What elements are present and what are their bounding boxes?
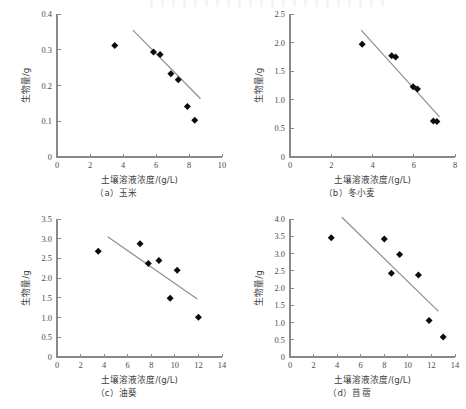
y-tick-label: 3.5 bbox=[275, 232, 285, 241]
data-point-marker bbox=[137, 240, 144, 247]
data-point-marker bbox=[440, 333, 447, 340]
x-tick-label: 8 bbox=[382, 361, 386, 370]
x-tick-label: 0 bbox=[55, 361, 59, 370]
x-tick-label: 2 bbox=[329, 161, 333, 170]
y-tick-label: 3.5 bbox=[42, 215, 52, 224]
trend-line bbox=[361, 30, 439, 117]
y-tick-label: 3.0 bbox=[42, 235, 52, 244]
data-point-marker bbox=[111, 42, 118, 49]
y-tick-label: 0 bbox=[281, 153, 285, 162]
chart-panel-a: 024681000.10.20.30.4生物量/g土壤溶液浓度/(g/L)（a）… bbox=[0, 0, 233, 205]
y-tick-label: 0 bbox=[281, 353, 285, 362]
panel-caption: （b）冬小麦 bbox=[233, 186, 466, 198]
chart-panel-d: 0246810121400.51.01.52.02.53.03.54.0生物量/… bbox=[233, 205, 466, 409]
data-point-marker bbox=[157, 51, 164, 58]
data-point-marker bbox=[415, 271, 422, 278]
chart-panel-b: 0246800.51.01.52.02.5生物量/g土壤溶液浓度/(g/L)（b… bbox=[233, 0, 466, 205]
data-points bbox=[328, 234, 447, 340]
data-point-marker bbox=[174, 267, 181, 274]
y-tick-label: 0 bbox=[48, 353, 52, 362]
y-axis-title: 生物量/g bbox=[20, 68, 31, 103]
x-tick-label: 4 bbox=[335, 361, 340, 370]
x-tick-label: 4 bbox=[102, 361, 107, 370]
y-tick-label: 1.0 bbox=[275, 319, 285, 328]
y-axis-title: 生物量/g bbox=[253, 270, 264, 305]
axes bbox=[290, 219, 455, 357]
x-tick-label: 4 bbox=[370, 161, 375, 170]
axes bbox=[57, 219, 222, 357]
y-axis-ticks: 00.51.01.52.02.53.03.5 bbox=[42, 215, 61, 362]
data-point-marker bbox=[95, 248, 102, 255]
y-tick-label: 0.5 bbox=[275, 124, 285, 133]
y-tick-label: 1.5 bbox=[275, 301, 285, 310]
y-axis-ticks: 00.51.01.52.02.53.03.54.0 bbox=[275, 215, 294, 362]
data-point-marker bbox=[167, 295, 174, 302]
x-axis-title: 土壤溶液浓度/(g/L) bbox=[101, 374, 178, 385]
x-tick-label: 4 bbox=[121, 161, 126, 170]
panel-caption: （a）玉米 bbox=[0, 186, 233, 198]
y-tick-label: 3.0 bbox=[275, 250, 285, 259]
data-point-marker bbox=[426, 317, 433, 324]
x-tick-label: 14 bbox=[451, 361, 460, 370]
chart-panel-c: 0246810121400.51.01.52.02.53.03.5生物量/g土壤… bbox=[0, 205, 233, 409]
data-points bbox=[95, 240, 202, 320]
x-tick-label: 2 bbox=[311, 361, 315, 370]
y-tick-label: 1.5 bbox=[42, 294, 52, 303]
x-tick-label: 6 bbox=[154, 161, 158, 170]
x-tick-label: 6 bbox=[412, 161, 416, 170]
data-point-marker bbox=[359, 41, 366, 48]
x-tick-label: 0 bbox=[55, 161, 59, 170]
x-tick-label: 10 bbox=[404, 361, 412, 370]
figure-grid: 024681000.10.20.30.4生物量/g土壤溶液浓度/(g/L)（a）… bbox=[0, 0, 466, 409]
axes bbox=[290, 14, 455, 157]
data-point-marker bbox=[184, 103, 191, 110]
y-tick-label: 0.2 bbox=[42, 82, 52, 91]
data-point-marker bbox=[396, 251, 403, 258]
x-tick-label: 8 bbox=[453, 161, 457, 170]
y-axis-title: 生物量/g bbox=[253, 68, 264, 103]
data-point-marker bbox=[195, 314, 202, 321]
y-tick-label: 0.5 bbox=[275, 336, 285, 345]
y-tick-label: 0.1 bbox=[42, 117, 52, 126]
x-tick-label: 10 bbox=[218, 161, 226, 170]
trend-line bbox=[108, 237, 198, 299]
y-tick-label: 2.5 bbox=[275, 10, 285, 19]
y-tick-label: 2.0 bbox=[275, 284, 285, 293]
x-axis-ticks: 02468101214 bbox=[288, 354, 460, 371]
x-tick-label: 6 bbox=[359, 361, 363, 370]
x-axis-ticks: 02468101214 bbox=[55, 354, 227, 371]
y-tick-label: 0 bbox=[48, 153, 52, 162]
y-tick-label: 1.5 bbox=[275, 67, 285, 76]
y-tick-label: 2.0 bbox=[42, 274, 52, 283]
y-axis-ticks: 00.51.01.52.02.5 bbox=[275, 10, 294, 162]
data-point-marker bbox=[328, 234, 335, 241]
x-tick-label: 12 bbox=[427, 361, 435, 370]
y-tick-label: 0.4 bbox=[42, 10, 53, 19]
x-tick-label: 0 bbox=[288, 361, 292, 370]
data-points bbox=[359, 41, 441, 125]
data-point-marker bbox=[155, 257, 162, 264]
x-tick-label: 10 bbox=[171, 361, 179, 370]
panel-caption: （c）油葵 bbox=[0, 386, 233, 398]
axes bbox=[57, 14, 222, 157]
data-point-marker bbox=[388, 270, 395, 277]
x-axis-title: 土壤溶液浓度/(g/L) bbox=[334, 374, 411, 385]
trend-line bbox=[133, 30, 201, 99]
y-axis-ticks: 00.10.20.30.4 bbox=[42, 10, 61, 162]
x-tick-label: 8 bbox=[187, 161, 191, 170]
data-point-marker bbox=[381, 236, 388, 243]
y-tick-label: 2.5 bbox=[42, 254, 52, 263]
y-tick-label: 0.5 bbox=[42, 333, 52, 342]
data-point-marker bbox=[150, 48, 157, 55]
y-tick-label: 2.5 bbox=[275, 267, 285, 276]
panel-caption: （d）苜蓿 bbox=[233, 386, 466, 398]
data-point-marker bbox=[191, 117, 198, 124]
x-tick-label: 12 bbox=[194, 361, 202, 370]
y-tick-label: 0.3 bbox=[42, 46, 52, 55]
y-axis-title: 生物量/g bbox=[20, 270, 31, 305]
data-point-marker bbox=[145, 260, 152, 267]
y-tick-label: 2.0 bbox=[275, 39, 285, 48]
trend-line bbox=[342, 217, 439, 311]
data-point-marker bbox=[175, 76, 182, 83]
x-tick-label: 2 bbox=[88, 161, 92, 170]
